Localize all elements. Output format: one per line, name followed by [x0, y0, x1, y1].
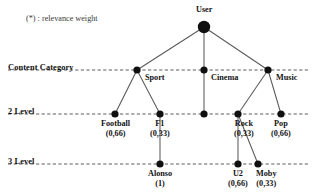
- node-weight-u2: (0,66): [228, 179, 248, 189]
- node-label-u2: U2(0,66): [228, 169, 248, 188]
- node-label-sport: Sport: [145, 73, 165, 83]
- node-name-pop: Pop: [274, 119, 288, 128]
- level-label-content-category: Content Category: [8, 63, 74, 72]
- node-moby[interactable]: [254, 160, 261, 167]
- node-weight-moby: (0,33): [256, 179, 276, 189]
- hierarchy-diagram: (*) : relevance weight Content Category2…: [0, 0, 312, 193]
- node-name-music: Music: [276, 73, 297, 82]
- relevance-weight-legend: (*) : relevance weight: [26, 14, 98, 23]
- tree-nodes: [111, 21, 284, 168]
- node-name-moby: Moby: [256, 169, 276, 178]
- node-weight-pop: (0,66): [271, 129, 291, 139]
- node-name-f1: F1: [155, 119, 164, 128]
- node-name-sport: Sport: [145, 73, 165, 82]
- node-weight-f1: (0,33): [150, 129, 170, 139]
- level-label-level-2: 2 Level: [8, 107, 35, 116]
- node-label-football: Football(0,66): [101, 119, 130, 138]
- node-label-rock: Rock(0,33): [234, 119, 254, 138]
- node-music[interactable]: [264, 66, 271, 73]
- level-label-level-3: 3 Level: [8, 157, 35, 166]
- node-weight-alonso: (1): [148, 179, 172, 189]
- edge-user-to-sport: [137, 27, 204, 70]
- node-label-cinema: Cinema: [211, 73, 238, 83]
- node-rock[interactable]: [234, 110, 241, 117]
- node-name-alonso: Alonso: [148, 169, 172, 178]
- node-label-pop: Pop(0,66): [271, 119, 291, 138]
- node-label-music: Music: [276, 73, 297, 83]
- node-alonso[interactable]: [156, 160, 163, 167]
- node-label-user: User: [196, 5, 212, 15]
- node-cinema2[interactable]: [200, 110, 207, 117]
- level-dashed-lines: [8, 70, 308, 164]
- node-label-alonso: Alonso(1): [148, 169, 172, 188]
- node-name-user: User: [196, 5, 212, 14]
- node-user[interactable]: [198, 21, 210, 33]
- node-name-football: Football: [101, 119, 130, 128]
- node-pop[interactable]: [277, 110, 284, 117]
- tree-graphics: [0, 0, 312, 193]
- node-name-rock: Rock: [235, 119, 253, 128]
- node-weight-rock: (0,33): [234, 129, 254, 139]
- edge-sport-to-football: [115, 70, 137, 114]
- node-sport[interactable]: [133, 66, 140, 73]
- node-name-u2: U2: [233, 169, 243, 178]
- node-u2[interactable]: [234, 160, 241, 167]
- node-weight-football: (0,66): [101, 129, 130, 139]
- edge-user-to-music: [204, 27, 268, 70]
- node-f1[interactable]: [156, 110, 163, 117]
- node-label-f1: F1(0,33): [150, 119, 170, 138]
- node-football[interactable]: [111, 110, 118, 117]
- tree-edges: [115, 27, 281, 164]
- node-name-cinema: Cinema: [211, 73, 238, 82]
- node-label-moby: Moby(0,33): [256, 169, 276, 188]
- node-cinema[interactable]: [200, 66, 207, 73]
- edge-music-to-rock: [238, 70, 268, 114]
